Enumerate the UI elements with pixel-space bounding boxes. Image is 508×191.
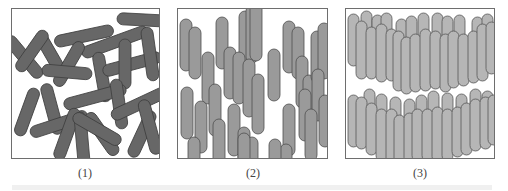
isotropic-rods-illustration [12,9,160,159]
panel-label-1: (1) [55,166,115,181]
panel-label-2: (2) [223,166,283,181]
panel-isotropic [11,8,160,159]
panel-label-3: (3) [390,166,450,181]
panel-nematic [177,8,328,159]
panel-smectic [345,8,495,159]
smectic-rods-illustration [346,9,495,159]
nematic-rods-illustration [178,9,328,159]
faded-caption [12,185,492,190]
